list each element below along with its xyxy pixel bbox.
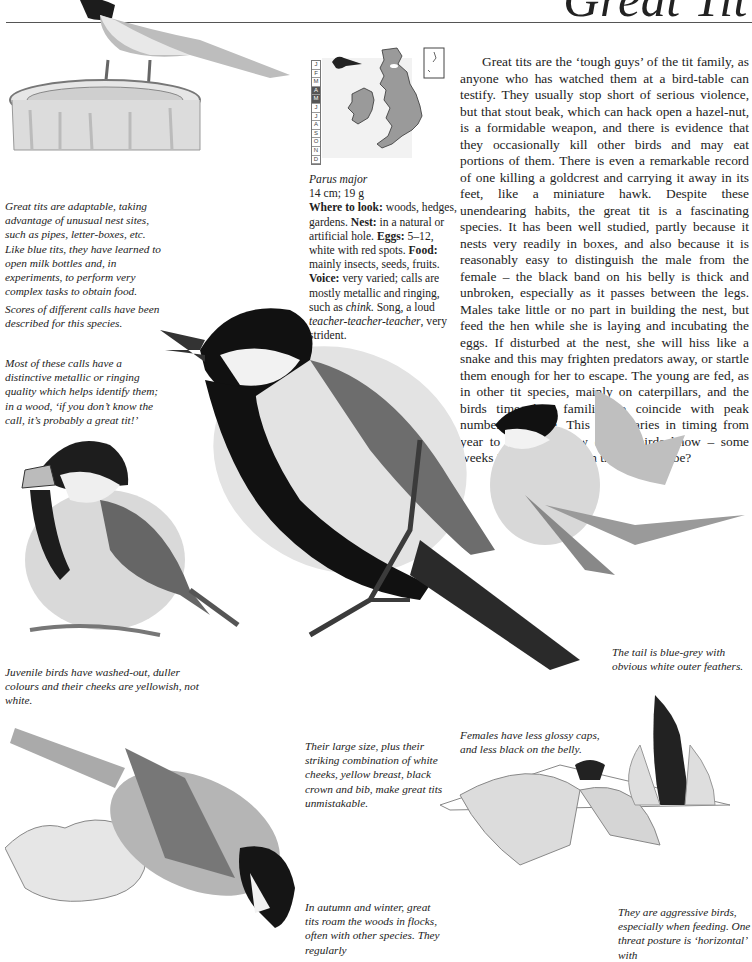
caption-aggressive: They are aggressive birds, especially wh…: [618, 905, 752, 962]
distribution-map: [322, 44, 457, 159]
caption-calls: Scores of different calls have been desc…: [5, 302, 167, 330]
eggs-label: Eggs:: [377, 230, 405, 243]
feeding-bird-illustration: [485, 385, 750, 585]
month-calendar: J F M A M J J A S O N D: [311, 60, 321, 165]
month-nov: N: [312, 147, 320, 156]
threat-display-birds-illustration: [440, 695, 752, 880]
month-may: M: [312, 95, 320, 104]
month-jan: J: [312, 61, 320, 70]
caption-tail: The tail is blue-grey with obvious white…: [612, 645, 752, 673]
caption-metallic: Most of these calls have a distinctive m…: [5, 356, 167, 427]
latin-name: Parus major: [309, 173, 367, 186]
caption-autumn: In autumn and winter, great tits roam th…: [305, 900, 445, 957]
food-label: Food:: [409, 244, 438, 257]
caption-size: Their large size, plus their striking co…: [305, 739, 445, 810]
month-mar: M: [312, 78, 320, 87]
month-sep: S: [312, 130, 320, 139]
month-jun: J: [312, 104, 320, 113]
month-dec: D: [312, 156, 320, 165]
month-aug: A: [312, 121, 320, 130]
bird-on-pipe-illustration: [0, 0, 300, 160]
nest-label: Nest:: [351, 216, 377, 229]
voice-label: Voice:: [309, 272, 339, 285]
food-text: mainly insects, seeds, fruits.: [309, 258, 440, 271]
page-title: Great Tit: [563, 0, 748, 24]
bird-on-leaf-illustration: [5, 708, 300, 944]
where-label: Where to look:: [309, 201, 383, 214]
caption-adaptable: Great tits are adaptable, taking advanta…: [5, 199, 167, 298]
month-apr: A: [312, 87, 320, 96]
month-feb: F: [312, 70, 320, 79]
month-oct: O: [312, 138, 320, 147]
month-jul: J: [312, 113, 320, 122]
size-weight: 14 cm; 19 g: [309, 187, 364, 200]
